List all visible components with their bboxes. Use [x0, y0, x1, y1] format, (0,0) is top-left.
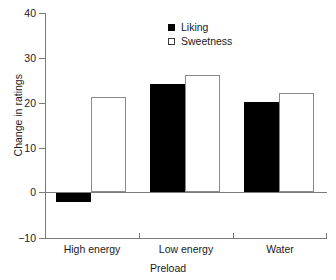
legend-entry-liking: Liking: [168, 21, 232, 34]
x-tick-label-low-energy: Low energy: [139, 244, 233, 255]
bar-liking-water: [244, 102, 279, 192]
bar-chart-figure: 40 30 20 10 0 −10 High energy Low energy…: [0, 0, 336, 280]
x-tick-label-high-energy: High energy: [45, 244, 139, 255]
bar-sweetness-low-energy: [185, 75, 220, 192]
open-square-icon: [168, 38, 175, 45]
x-tick-mark: [326, 233, 327, 239]
x-tick-mark: [139, 233, 140, 239]
y-axis-title: Change in ratings: [13, 45, 24, 185]
bar-sweetness-high-energy: [91, 97, 126, 192]
zero-baseline: [45, 192, 327, 193]
chart-legend: Liking Sweetness: [168, 21, 232, 49]
filled-square-icon: [168, 24, 175, 31]
y-tick-label-0: 0: [0, 187, 36, 198]
bar-sweetness-water: [279, 93, 314, 192]
x-tick-label-water: Water: [233, 244, 327, 255]
legend-entry-sweetness: Sweetness: [168, 35, 232, 48]
x-tick-mark: [45, 233, 46, 239]
x-tick-mark: [233, 233, 234, 239]
y-tick-label-40: 40: [0, 8, 36, 19]
legend-label-sweetness: Sweetness: [181, 36, 232, 47]
legend-label-liking: Liking: [181, 22, 208, 33]
bar-liking-high-energy: [56, 192, 91, 202]
x-axis-title: Preload: [0, 263, 336, 274]
bar-liking-low-energy: [150, 84, 185, 192]
y-tick-label-minus-10: −10: [0, 233, 36, 244]
x-axis-spine: [45, 238, 327, 239]
